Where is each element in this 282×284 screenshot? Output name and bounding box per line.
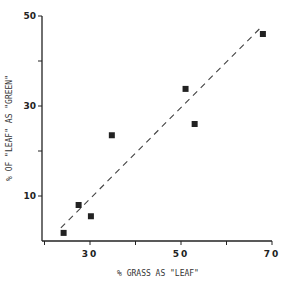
data-point-marker [260, 31, 266, 37]
data-point-marker [183, 86, 189, 92]
x-axis-title: % GRASS AS "LEAF" [117, 269, 199, 278]
scatter-chart: 103050305070 % GRASS AS "LEAF" % OF "LEA… [0, 0, 282, 284]
data-point-marker [76, 202, 82, 208]
x-tick-label: 70 [264, 249, 281, 259]
data-point-marker [109, 132, 115, 138]
axes: 103050305070 [23, 11, 280, 259]
fitted-line [61, 28, 260, 228]
x-tick-label: 50 [173, 249, 190, 259]
y-tick-label: 30 [23, 101, 36, 111]
x-tick-label: 30 [82, 249, 99, 259]
data-point-marker [88, 213, 94, 219]
data-point-marker [61, 230, 67, 236]
y-axis-title: % OF "LEAF" AS "GREEN" [5, 75, 14, 181]
y-tick-label: 50 [23, 11, 36, 21]
regression-line [61, 28, 260, 228]
y-tick-label: 10 [23, 191, 36, 201]
data-points [61, 31, 266, 236]
data-point-marker [192, 121, 198, 127]
